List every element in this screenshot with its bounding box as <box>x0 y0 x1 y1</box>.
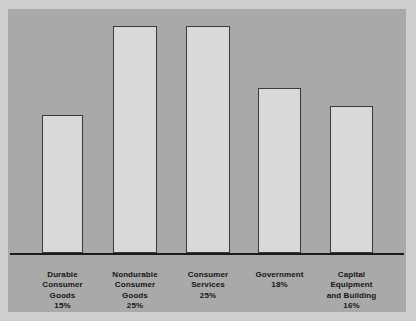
category-label-text: Capital Equipment and Building <box>327 270 377 300</box>
bar-chart: Durable Consumer Goods 15% Nondurable Co… <box>0 0 416 321</box>
category-value-label: 15% <box>24 301 102 312</box>
category-label-capital-equipment-and-building: Capital Equipment and Building 16% <box>313 259 391 321</box>
category-label-consumer-services: Consumer Services 25% <box>169 259 247 312</box>
category-label-text: Government <box>255 270 303 279</box>
category-label-nondurable-consumer-goods: Nondurable Consumer Goods 25% <box>96 259 174 321</box>
category-labels: Durable Consumer Goods 15% Nondurable Co… <box>8 255 406 312</box>
bars-layer <box>8 9 406 253</box>
bar-government[interactable] <box>258 88 301 253</box>
category-label-durable-consumer-goods: Durable Consumer Goods 15% <box>24 259 102 321</box>
chart-panel: Durable Consumer Goods 15% Nondurable Co… <box>8 9 406 312</box>
category-label-text: Durable Consumer Goods <box>42 270 82 300</box>
bar-capital-equipment-and-building[interactable] <box>330 106 373 253</box>
bar-durable-consumer-goods[interactable] <box>42 115 83 253</box>
category-value-label: 25% <box>96 301 174 312</box>
plot-area <box>8 9 406 253</box>
category-label-text: Consumer Services <box>188 270 228 290</box>
bar-consumer-services[interactable] <box>186 26 230 253</box>
category-label-text: Nondurable Consumer Goods <box>112 270 157 300</box>
bar-nondurable-consumer-goods[interactable] <box>113 26 157 253</box>
category-value-label: 16% <box>313 301 391 312</box>
category-value-label: 25% <box>169 291 247 302</box>
category-value-label: 18% <box>241 280 319 291</box>
category-label-government: Government 18% <box>241 259 319 301</box>
